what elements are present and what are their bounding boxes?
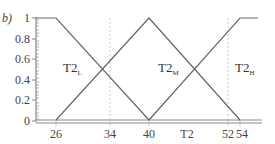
y-tick-0.2: 0.2 [15, 93, 30, 107]
membership-function-chart: b) 1 [0, 0, 275, 144]
y-tick-0.8: 0.8 [15, 32, 30, 46]
y-axis: 1 0.8 0.6 0.4 0.2 0 [15, 11, 39, 128]
panel-label: b) [2, 11, 12, 25]
y-tick-1: 1 [24, 11, 30, 25]
x-axis: 26 34 40 T2 52 54 [36, 120, 262, 141]
y-tick-0: 0 [24, 114, 30, 128]
x-tick-52: 52 [222, 127, 234, 141]
x-axis-label: T2 [180, 127, 193, 141]
label-t2-high: T2H [235, 60, 255, 77]
label-t2-mid: T2M [158, 60, 179, 77]
y-tick-0.4: 0.4 [15, 73, 30, 87]
x-tick-34: 34 [104, 127, 116, 141]
x-tick-54: 54 [236, 127, 248, 141]
x-tick-40: 40 [143, 127, 155, 141]
series-t2-low [36, 18, 149, 120]
series-t2-mid [56, 18, 240, 120]
label-t2-low: T2L [63, 60, 82, 77]
x-tick-26: 26 [50, 127, 62, 141]
y-tick-0.6: 0.6 [15, 52, 30, 66]
